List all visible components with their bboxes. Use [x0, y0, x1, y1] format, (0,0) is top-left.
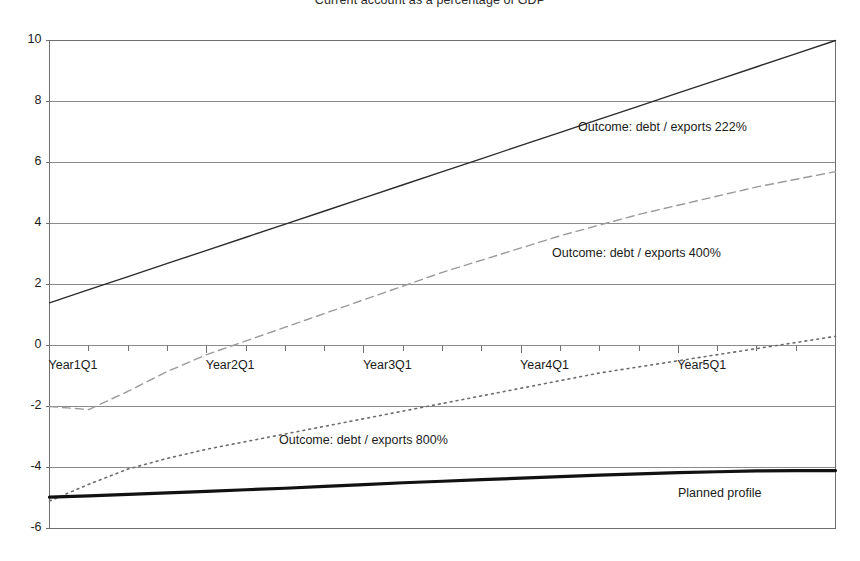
- y-axis-tick-label: -4: [8, 459, 42, 473]
- y-axis-tick-label: 2: [8, 276, 42, 290]
- x-axis-tick-label: Year1Q1: [49, 358, 98, 372]
- series-line-2: [50, 172, 836, 410]
- x-axis-tick-label: Year2Q1: [206, 358, 255, 372]
- y-axis-tick-label: -6: [8, 520, 42, 534]
- y-axis-tick-label: -2: [8, 398, 42, 412]
- series-annotation-label: Outcome: debt / exports 800%: [279, 433, 448, 447]
- series-annotation-label: Planned profile: [678, 486, 761, 500]
- y-axis-tick-label: 10: [8, 32, 42, 46]
- series-line-1: [50, 41, 836, 303]
- chart-container: Current account as a percentage of GDP 1…: [0, 0, 860, 561]
- y-axis-tick-label: 6: [8, 154, 42, 168]
- chart-plot-area: [0, 0, 860, 561]
- x-axis-tick-label: Year4Q1: [520, 358, 569, 372]
- series-annotation-label: Outcome: debt / exports 400%: [552, 246, 721, 260]
- x-axis-tick-label: Year3Q1: [363, 358, 412, 372]
- x-axis-tick-label: Year5Q1: [677, 358, 726, 372]
- data-series-lines: [50, 41, 836, 502]
- y-axis-tick-label: 0: [8, 337, 42, 351]
- y-axis-tick-label: 4: [8, 215, 42, 229]
- gridlines: [50, 41, 836, 529]
- x-axis-ticks: [50, 346, 836, 353]
- series-annotation-label: Outcome: debt / exports 222%: [578, 120, 747, 134]
- y-axis-tick-label: 8: [8, 93, 42, 107]
